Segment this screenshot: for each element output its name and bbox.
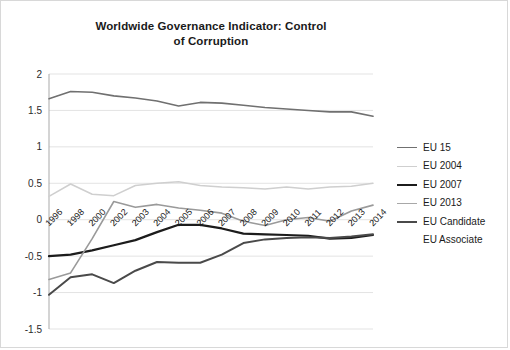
y-axis-tick-labels: 21.510.50-0.5-1-1.5 (25, 69, 43, 335)
y-tick-label: 1 (36, 141, 42, 152)
y-tick-label: 1.5 (28, 105, 42, 116)
y-tick-label: 0 (36, 214, 42, 225)
legend-swatch-line-icon (397, 142, 417, 152)
y-tick-label: -1 (33, 287, 42, 298)
series-line-eu-15 (49, 91, 373, 116)
y-tick-label: 2 (36, 69, 42, 80)
x-tick-label: 2010 (281, 207, 302, 228)
data-series-lines (49, 91, 373, 294)
legend-swatch-line-icon (397, 198, 417, 208)
x-tick-label: 2012 (324, 207, 345, 228)
legend-item[interactable]: EU 2013 (397, 194, 509, 213)
chart-container: Worldwide Governance Indicator: Control … (0, 0, 508, 348)
x-tick-label: 2014 (367, 207, 388, 228)
y-tick-label: 0.5 (28, 178, 42, 189)
legend-item[interactable]: EU 2007 (397, 175, 509, 194)
x-tick-label: 2002 (108, 207, 129, 228)
series-line-eu-candidate (49, 234, 373, 294)
legend-label: EU 2007 (423, 179, 462, 190)
x-tick-label: 2011 (303, 207, 324, 228)
x-tick-label: 2004 (151, 207, 172, 228)
x-tick-label: 2013 (346, 207, 367, 228)
legend-item[interactable]: EU Candidate (397, 212, 509, 231)
legend-swatch-line-icon (397, 161, 417, 171)
x-tick-label: 2008 (238, 207, 259, 228)
legend-item[interactable]: EU 15 (397, 138, 509, 157)
series-line-eu-2004 (49, 182, 373, 197)
chart-legend: EU 15EU 2004EU 2007EU 2013EU CandidateEU… (397, 138, 509, 249)
y-tick-label: -1.5 (25, 324, 43, 335)
x-tick-label: 1998 (65, 207, 86, 228)
x-tick-label: 2003 (130, 207, 151, 228)
legend-swatch-line-icon (397, 179, 417, 189)
legend-swatch-line-icon (397, 216, 417, 226)
y-tick-label: -0.5 (25, 251, 43, 262)
x-tick-label: 1996 (43, 207, 64, 228)
legend-label: EU 15 (423, 142, 451, 153)
legend-label: EU Candidate (423, 216, 485, 227)
legend-label: EU 2013 (423, 197, 462, 208)
x-axis-tick-labels: 1996199820002002200320042005200620072008… (43, 207, 388, 228)
legend-item[interactable]: EU 2004 (397, 157, 509, 176)
legend-label: EU 2004 (423, 160, 462, 171)
legend-item[interactable]: EU Associate (397, 231, 509, 250)
legend-label: EU Associate (423, 234, 482, 245)
